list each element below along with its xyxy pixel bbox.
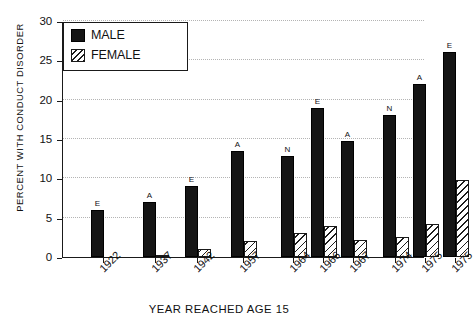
bar-annotation: A <box>407 73 432 82</box>
legend-label-female: FEMALE <box>91 48 140 62</box>
bar-annotation: E <box>437 41 462 50</box>
bar-annotation: N <box>275 145 300 154</box>
bar-male <box>383 115 396 257</box>
bar-annotation: E <box>179 175 204 184</box>
bar-annotation: E <box>85 199 110 208</box>
bar-male <box>281 156 294 257</box>
chart-legend: MALE FEMALE <box>63 22 188 71</box>
gridline <box>63 99 424 100</box>
y-tick-label: 30 <box>26 15 52 27</box>
y-tick-label: 25 <box>26 54 52 66</box>
y-tick-label: 10 <box>26 172 52 184</box>
bar-male <box>185 186 198 257</box>
legend-item-female: FEMALE <box>71 48 140 62</box>
bar-male <box>231 151 244 257</box>
bar-male <box>341 141 354 257</box>
y-tick-label: 0 <box>26 251 52 263</box>
bar-male <box>413 84 426 257</box>
legend-swatch-female-icon <box>71 49 85 62</box>
bar-male <box>91 210 104 257</box>
bar-female <box>456 180 469 257</box>
legend-swatch-male-icon <box>71 29 85 42</box>
y-tick-label: 5 <box>26 212 52 224</box>
y-tick-label: 20 <box>26 94 52 106</box>
y-axis-label: PERCENT WITH CONDUCT DISORDER <box>14 0 25 243</box>
x-axis-label: YEAR REACHED AGE 15 <box>0 303 438 315</box>
bar-annotation: N <box>377 104 402 113</box>
y-tick-mark <box>57 258 62 259</box>
bar-male <box>311 108 324 257</box>
bar-male <box>443 52 456 257</box>
legend-item-male: MALE <box>71 28 125 42</box>
bar-annotation: A <box>137 191 162 200</box>
bar-annotation: E <box>305 97 330 106</box>
bar-male <box>143 202 156 257</box>
bar-annotation: A <box>335 130 360 139</box>
bar-annotation: A <box>225 140 250 149</box>
legend-label-male: MALE <box>91 28 125 42</box>
y-tick-label: 15 <box>26 133 52 145</box>
gridline <box>63 20 424 21</box>
